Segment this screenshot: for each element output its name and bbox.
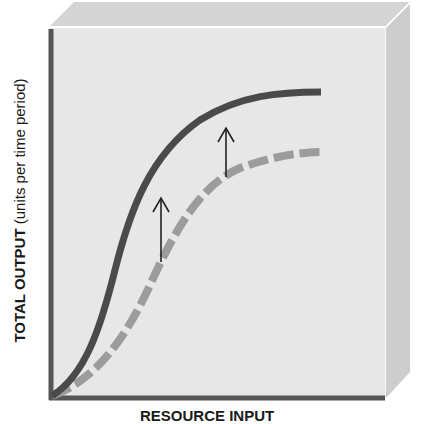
y-axis-label: TOTAL OUTPUT (units per time period) xyxy=(4,40,34,380)
box-top-face xyxy=(50,2,410,26)
box-front-face xyxy=(50,28,385,398)
y-axis-label-bold: TOTAL OUTPUT xyxy=(11,228,28,342)
box-side-face xyxy=(386,4,410,398)
y-axis-label-units: (units per time period) xyxy=(11,78,28,228)
x-axis-label: RESOURCE INPUT xyxy=(140,407,274,424)
